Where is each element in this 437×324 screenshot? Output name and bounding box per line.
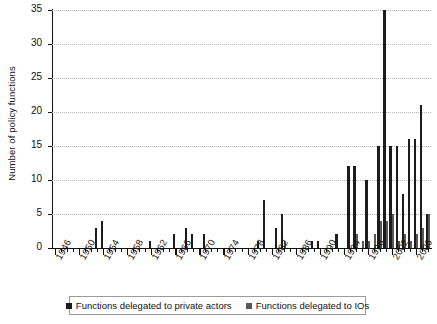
x-axis-tick-minor [121, 249, 122, 253]
x-axis-tick-minor [73, 249, 74, 253]
plot-area: 05101520253035 [52, 10, 431, 248]
x-axis-tick-minor [290, 249, 291, 253]
y-axis-tick-label: 15 [12, 140, 42, 150]
x-axis-tick-minor [314, 249, 315, 253]
y-axis-tick-label: 25 [12, 72, 42, 82]
x-axis-tick-minor [97, 249, 98, 253]
x-axis-tick-minor [217, 249, 218, 253]
x-axis-tick-minor [193, 249, 194, 253]
x-axis-tick-minor [410, 249, 411, 253]
bar [386, 221, 388, 248]
y-axis-tick-label: 10 [12, 174, 42, 184]
chart-legend: Functions delegated to private actors Fu… [69, 296, 366, 315]
chart-figure: Number of policy functions 0510152025303… [0, 0, 437, 324]
legend-swatch-icon [246, 303, 252, 309]
bar-series-group [52, 10, 431, 248]
legend-swatch-icon [66, 303, 72, 309]
legend-item-private: Functions delegated to private actors [66, 300, 232, 311]
y-axis-tick-label: 30 [12, 38, 42, 48]
bar [396, 146, 398, 248]
x-axis-tick-minor [145, 249, 146, 253]
bar [408, 139, 410, 248]
bar [365, 180, 367, 248]
bar [414, 139, 416, 248]
bar [317, 241, 319, 248]
y-axis-tick-label: 5 [12, 208, 42, 218]
x-axis-tick-minor [266, 249, 267, 253]
bar [101, 221, 103, 248]
bar [383, 10, 385, 248]
bar [149, 241, 151, 248]
x-axis-tick-minor [169, 249, 170, 253]
bar [420, 105, 422, 248]
x-axis-tick-minor [386, 249, 387, 253]
bar [173, 234, 175, 248]
y-axis-tick-label: 20 [12, 106, 42, 116]
x-axis-labels: 1946195019541958196219661970197419781982… [52, 256, 432, 290]
x-axis-tick-minor [362, 249, 363, 253]
x-axis-tick-minor [242, 249, 243, 253]
legend-label-private: Functions delegated to private actors [76, 300, 232, 311]
bar [392, 214, 394, 248]
bar [347, 166, 349, 248]
y-axis-tick-label: 0 [12, 242, 42, 252]
y-axis-tick-label: 35 [12, 4, 42, 14]
legend-item-ios: Functions delegated to IOs [246, 300, 370, 311]
legend-label-ios: Functions delegated to IOs [256, 300, 370, 311]
x-axis-tick-minor [338, 249, 339, 253]
bar [416, 234, 418, 248]
